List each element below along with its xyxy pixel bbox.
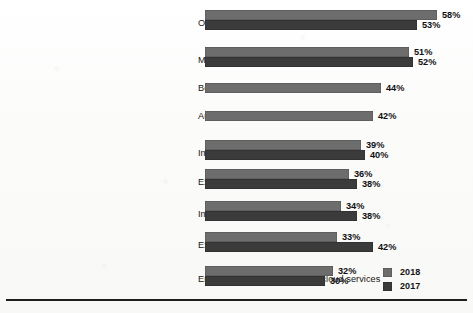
chart-legend: 2018 2017 [383, 265, 420, 293]
legend-entry-2018: 2018 [383, 265, 420, 279]
bar-value-2018: 44% [386, 83, 404, 93]
bar-value-2018: 36% [354, 169, 372, 179]
bar-value-2018: 39% [366, 140, 384, 150]
bar-2018 [205, 47, 409, 57]
bar-2017 [205, 57, 413, 67]
legend-entry-2017: 2017 [383, 279, 420, 293]
bar-2018 [205, 140, 361, 150]
bar-2017 [205, 276, 325, 286]
bar-2018 [205, 266, 333, 276]
bar-2017 [205, 211, 357, 221]
legend-label-2018: 2018 [400, 267, 420, 277]
bar-value-2017: 42% [378, 242, 396, 252]
bar-2018 [205, 232, 337, 242]
bar-value-2018: 58% [442, 10, 460, 20]
chart-baseline-axis [6, 299, 467, 301]
bar-value-2018: 34% [346, 201, 364, 211]
bar-2017 [205, 20, 417, 30]
bar-2018 [205, 201, 341, 211]
bar-value-2017: 53% [422, 20, 440, 30]
bar-2018 [205, 111, 373, 121]
bar-value-2018: 51% [414, 47, 432, 57]
bar-2018 [205, 83, 381, 93]
bar-2017 [205, 242, 373, 252]
bar-2017 [205, 150, 365, 160]
legend-label-2017: 2017 [400, 281, 420, 291]
legend-swatch-2017 [383, 282, 392, 291]
bar-value-2018: 32% [338, 266, 356, 276]
bar-value-2017: 40% [370, 150, 388, 160]
bar-value-2017: 52% [418, 57, 436, 67]
bar-value-2018: 33% [342, 232, 360, 242]
bar-2018 [205, 169, 349, 179]
legend-swatch-2018 [383, 268, 392, 277]
bar-2018 [205, 10, 437, 20]
bar-2017 [205, 179, 357, 189]
bar-value-2018: 42% [378, 111, 396, 121]
bar-value-2017: 30% [330, 276, 348, 286]
bar-value-2017: 38% [362, 211, 380, 221]
bar-value-2017: 38% [362, 179, 380, 189]
